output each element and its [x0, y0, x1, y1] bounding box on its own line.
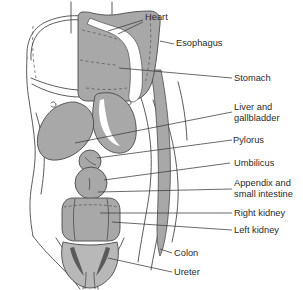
label-umbilicus: Umbilicus [234, 158, 275, 168]
label-appendix-line2: small intestine [234, 189, 293, 199]
stomach-shape [93, 93, 137, 154]
appendix-small-intestine [62, 198, 120, 241]
label-stomach: Stomach [234, 73, 271, 83]
diaphragm-dashed-line [33, 26, 36, 78]
label-left-kidney: Left kidney [234, 225, 279, 235]
label-esophagus: Esophagus [176, 38, 223, 48]
label-ureter: Ureter [174, 267, 200, 277]
leader-left-kidney [112, 222, 232, 230]
bladder-shape [62, 242, 119, 288]
label-appendix-line1: Appendix and [234, 178, 291, 188]
right-torso-outline [178, 82, 187, 140]
left-nipple [51, 102, 56, 107]
descending-colon [151, 70, 170, 256]
descending-colon-shape [151, 70, 170, 256]
label-liver-line1: Liver and [234, 102, 272, 112]
leader-ureter [108, 258, 172, 272]
label-pylorus: Pylorus [233, 135, 264, 145]
abdominal-contour-right [138, 95, 151, 262]
label-colon: Colon [174, 248, 198, 258]
label-right-kidney: Right kidney [234, 208, 286, 218]
left-arm-inner-outline [31, 20, 82, 60]
label-liver-line2: gallbladder [234, 113, 280, 123]
ureter [62, 242, 119, 289]
anatomy-diagram: Heart Esophagus Stomach Liver and gallbl… [0, 0, 303, 290]
leader-esophagus [160, 41, 174, 44]
label-heart: Heart [145, 12, 168, 22]
stomach [93, 93, 137, 154]
umbilicus-shape [75, 167, 107, 199]
umbilicus [75, 167, 107, 199]
